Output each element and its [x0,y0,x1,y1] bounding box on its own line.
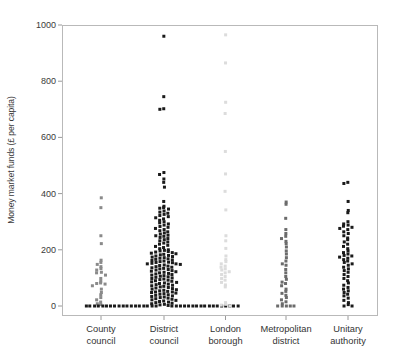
y-tick-label: 200 [22,245,56,255]
y-tick-label: 1000 [22,20,56,30]
x-tick-label: Unitary authority [303,324,393,347]
plot-area-frame [62,25,378,316]
y-axis-title-text: Money market funds (£ per capita) [6,96,16,224]
y-tick-label: 800 [22,76,56,86]
chart-figure: Money market funds (£ per capita) 020040… [0,0,397,364]
y-axis-title: Money market funds (£ per capita) [2,0,20,320]
y-tick-label: 0 [22,301,56,311]
y-tick-label: 600 [22,132,56,142]
y-tick-label: 400 [22,189,56,199]
